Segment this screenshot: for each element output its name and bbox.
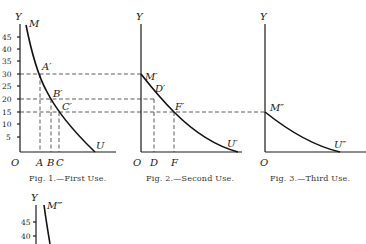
diminishing-utility-diagrams: Y 45 40 35 30 25 20 15 10 5 M A′ B′ C′ U… <box>0 0 366 244</box>
label-U-prime: U′ <box>227 138 238 149</box>
fig2-origin-label: O <box>133 157 141 168</box>
fig2-y-axis-label: Y <box>136 11 144 22</box>
fig4-y-axis-label: Y <box>31 192 39 203</box>
tick-25: 25 <box>2 82 12 91</box>
fig1-origin-label: O <box>11 157 19 168</box>
figure-4-partial: Y 45 40 M‴ <box>21 192 63 244</box>
tick-20: 20 <box>2 95 12 104</box>
figure-2-second-use: Y M′ D′ F′ U′ O D F Fig. 2.—Second Use. <box>133 11 242 183</box>
label-M-prime: M′ <box>144 71 158 82</box>
label-C-prime: C′ <box>62 101 73 112</box>
label-U-double-prime: U″ <box>334 139 346 150</box>
fig1-caption: Fig. 1.—First Use. <box>29 174 106 183</box>
figure-3-third-use: Y M″ U″ O Fig. 3.—Third Use. <box>260 11 366 183</box>
fig3-utility-curve <box>265 112 340 152</box>
tick-5: 5 <box>6 133 11 142</box>
label-A-prime: A′ <box>41 61 52 72</box>
tick-35: 35 <box>2 57 12 66</box>
tick-40: 40 <box>2 45 12 54</box>
label-B: B <box>46 157 54 168</box>
tick-30: 30 <box>2 70 12 79</box>
fig1-y-ticks: 45 40 35 30 25 20 15 10 5 <box>2 33 20 142</box>
fig3-origin-label: O <box>260 157 268 168</box>
label-C: C <box>56 157 64 168</box>
tick-45: 45 <box>2 33 12 42</box>
tick-15: 15 <box>2 108 12 117</box>
label-D: D <box>149 157 158 168</box>
label-D-prime: D′ <box>154 83 166 94</box>
label-F-prime: F′ <box>174 101 185 112</box>
label-F: F <box>170 157 179 168</box>
label-M: M <box>28 18 40 29</box>
fig3-caption: Fig. 3.—Third Use. <box>270 174 350 183</box>
label-U: U <box>96 140 105 151</box>
label-M-triple-prime: M‴ <box>46 200 63 211</box>
label-M-double-prime: M″ <box>269 102 284 113</box>
fig1-y-axis-label: Y <box>15 11 23 22</box>
label-A: A <box>35 157 43 168</box>
fig3-y-axis-label: Y <box>260 11 268 22</box>
label-B-prime: B′ <box>52 88 63 99</box>
tick-10: 10 <box>2 120 12 129</box>
fig4-tick-40: 40 <box>21 232 31 241</box>
fig2-caption: Fig. 2.—Second Use. <box>146 174 234 183</box>
fig4-tick-45: 45 <box>21 218 31 227</box>
